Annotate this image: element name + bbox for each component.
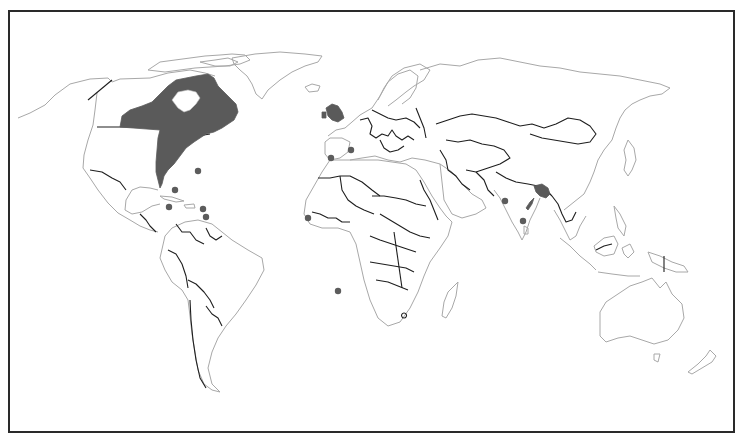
border-africa-west — [312, 212, 350, 222]
border-russia-west — [416, 108, 426, 138]
coastlines — [18, 52, 716, 392]
coast-iceland — [305, 84, 320, 92]
coast-arabia — [440, 164, 486, 218]
coast-sumatra — [560, 238, 596, 270]
coast-africa — [304, 160, 452, 326]
occurrence-dot-jamaica — [166, 204, 172, 210]
border-africa-central — [372, 196, 426, 206]
border-europe-2 — [372, 110, 420, 128]
occurrence-dot-france — [348, 147, 354, 153]
border-chile-argentina — [190, 300, 206, 388]
border-africa-sahara — [340, 176, 374, 214]
border-central-asia — [446, 140, 510, 172]
occurrence-dot-senegal — [305, 215, 311, 221]
range-eastern-north-america — [120, 74, 238, 188]
border-paraguay-uruguay — [206, 306, 222, 326]
occurrence-dot-south-india — [520, 218, 526, 224]
coast-gulf — [125, 187, 160, 214]
occurrence-dot-bahamas — [172, 187, 178, 193]
occurrence-dot-st-helena — [335, 288, 341, 294]
world-distribution-map — [0, 0, 739, 435]
border-peru-brazil — [168, 250, 188, 288]
coast-new-zealand — [688, 350, 716, 374]
occurrence-dot-west-india — [502, 198, 508, 204]
coast-new-guinea — [648, 252, 688, 272]
occurrence-dot-antilles-north — [200, 206, 206, 212]
coast-sulawesi — [622, 244, 634, 258]
coast-south-america — [160, 220, 264, 392]
border-africa-congo — [370, 236, 416, 252]
coast-australia — [600, 278, 684, 344]
border-bolivia — [188, 280, 214, 308]
border-russia-mongolia — [520, 118, 596, 144]
border-middle-east — [440, 150, 470, 190]
occurrence-dot-bermuda — [195, 168, 201, 174]
border-colombia-venezuela — [176, 224, 204, 244]
range-british-isles — [322, 104, 344, 122]
occurrence-points — [166, 147, 526, 294]
coast-japan — [624, 140, 636, 176]
range-east-india-streak — [526, 198, 534, 210]
coast-philippines — [614, 206, 626, 236]
coast-madagascar — [442, 282, 458, 318]
coast-russia-north — [420, 58, 670, 96]
range-bangladesh — [534, 184, 550, 198]
border-europe-3 — [380, 140, 404, 152]
occurrence-dot-antilles-south — [203, 214, 209, 220]
border-africa-south-2 — [376, 280, 408, 290]
border-indochina — [552, 196, 576, 222]
border-africa-vertical — [394, 232, 402, 288]
border-africa-east — [420, 180, 438, 220]
border-africa-central-2 — [380, 214, 430, 238]
border-alaska-canada — [88, 80, 112, 100]
coast-india — [494, 190, 540, 240]
border-russia-kazakhstan — [436, 114, 520, 126]
occurrence-dot-portugal — [328, 155, 334, 161]
coast-java — [598, 272, 640, 276]
coast-arctic-islands — [148, 54, 250, 72]
coast-europe — [328, 70, 418, 136]
shaded-ranges — [120, 74, 550, 210]
coast-hispaniola — [184, 204, 195, 208]
border-africa-south — [370, 262, 414, 272]
coast-china — [564, 150, 604, 210]
border-africa-north — [318, 176, 380, 196]
coast-scandinavia — [378, 64, 430, 106]
border-borneo — [596, 244, 612, 250]
border-europe — [360, 118, 414, 140]
coast-tasmania — [654, 354, 660, 362]
border-iran-pakistan — [476, 172, 494, 196]
coast-cuba — [160, 196, 184, 202]
coast-indochina — [554, 210, 586, 240]
